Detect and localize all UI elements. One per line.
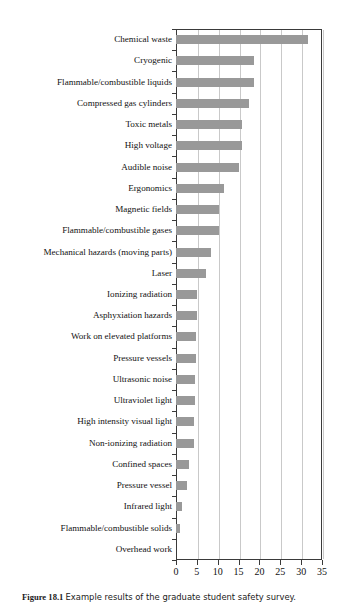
y-tick — [172, 263, 176, 264]
bar — [176, 311, 197, 320]
y-axis-category-labels: Chemical wasteCryogenicFlammable/combust… — [0, 29, 172, 560]
x-tick — [176, 560, 177, 565]
category-label: Ultraviolet light — [0, 395, 172, 405]
bar — [176, 35, 308, 44]
category-label: Flammable/combustible solids — [0, 523, 172, 533]
category-label: Ultrasonic noise — [0, 374, 172, 384]
bar — [176, 248, 211, 257]
y-tick — [172, 29, 176, 30]
y-tick — [172, 71, 176, 72]
bar — [176, 163, 239, 172]
bar — [176, 226, 219, 235]
bar-chart: Chemical wasteCryogenicFlammable/combust… — [0, 0, 345, 585]
category-label: Ionizing radiation — [0, 289, 172, 299]
category-label: Toxic metals — [0, 119, 172, 129]
y-tick — [172, 326, 176, 327]
y-tick — [172, 220, 176, 221]
y-tick — [172, 284, 176, 285]
category-label: Compressed gas cylinders — [0, 98, 172, 108]
x-tick — [197, 560, 198, 565]
y-tick — [172, 496, 176, 497]
category-label: Cryogenic — [0, 55, 172, 65]
y-tick — [172, 93, 176, 94]
category-label: Ergonomics — [0, 183, 172, 193]
y-tick — [172, 114, 176, 115]
category-label: Pressure vessels — [0, 353, 172, 363]
y-tick — [172, 475, 176, 476]
category-label: Audible noise — [0, 162, 172, 172]
x-tick-label: 30 — [296, 566, 306, 578]
bar — [176, 205, 219, 214]
category-label: Magnetic fields — [0, 204, 172, 214]
y-tick — [172, 305, 176, 306]
x-tick-label: 35 — [317, 566, 327, 578]
bar — [176, 439, 194, 448]
bar — [176, 502, 182, 511]
bar — [176, 56, 254, 65]
bar — [176, 417, 194, 426]
bar — [176, 290, 197, 299]
gridline — [323, 30, 324, 559]
bars-layer — [176, 29, 322, 560]
category-label: Mechanical hazards (moving parts) — [0, 247, 172, 257]
category-label: Chemical waste — [0, 34, 172, 44]
bar — [176, 99, 249, 108]
y-tick — [172, 433, 176, 434]
y-tick — [172, 156, 176, 157]
category-label: Laser — [0, 268, 172, 278]
y-tick — [172, 50, 176, 51]
bar — [176, 269, 206, 278]
x-tick-label: 15 — [234, 566, 244, 578]
y-tick — [172, 539, 176, 540]
figure-caption: Figure 18.1 Example results of the gradu… — [22, 592, 345, 603]
category-label: Infrared light — [0, 501, 172, 511]
y-axis-ticks — [172, 29, 176, 560]
x-tick — [259, 560, 260, 565]
bar — [176, 184, 224, 193]
bar — [176, 524, 180, 533]
figure-container: Chemical wasteCryogenicFlammable/combust… — [0, 0, 345, 608]
category-label: Pressure vessel — [0, 480, 172, 490]
x-tick — [301, 560, 302, 565]
x-tick — [218, 560, 219, 565]
x-tick — [239, 560, 240, 565]
bar — [176, 354, 196, 363]
bar — [176, 460, 189, 469]
y-tick — [172, 518, 176, 519]
x-tick — [280, 560, 281, 565]
y-tick — [172, 199, 176, 200]
bar — [176, 78, 254, 87]
x-axis-tick-labels: 05101520253035 — [176, 566, 322, 580]
bar — [176, 481, 187, 490]
y-tick — [172, 369, 176, 370]
x-tick-label: 25 — [275, 566, 285, 578]
x-tick-label: 5 — [194, 566, 199, 578]
category-label: Non-ionizing radiation — [0, 438, 172, 448]
bar — [176, 375, 195, 384]
bar — [176, 396, 195, 405]
figure-number: Figure 18.1 — [22, 592, 63, 602]
x-tick-label: 0 — [174, 566, 179, 578]
y-tick — [172, 411, 176, 412]
y-tick — [172, 390, 176, 391]
y-tick — [172, 178, 176, 179]
category-label: Work on elevated platforms — [0, 331, 172, 341]
y-tick — [172, 135, 176, 136]
y-tick — [172, 348, 176, 349]
category-label: Confined spaces — [0, 459, 172, 469]
y-tick — [172, 241, 176, 242]
bar — [176, 120, 242, 129]
category-label: Flammable/combustible liquids — [0, 77, 172, 87]
category-label: High intensity visual light — [0, 416, 172, 426]
bar — [176, 332, 196, 341]
x-tick-label: 20 — [254, 566, 264, 578]
figure-caption-text: Example results of the graduate student … — [66, 592, 296, 602]
bar — [176, 141, 242, 150]
category-label: Flammable/combustible gases — [0, 225, 172, 235]
category-label: Overhead work — [0, 544, 172, 554]
category-label: High voltage — [0, 140, 172, 150]
x-tick-label: 10 — [213, 566, 223, 578]
category-label: Asphyxiation hazards — [0, 310, 172, 320]
y-tick — [172, 454, 176, 455]
x-tick — [322, 560, 323, 565]
